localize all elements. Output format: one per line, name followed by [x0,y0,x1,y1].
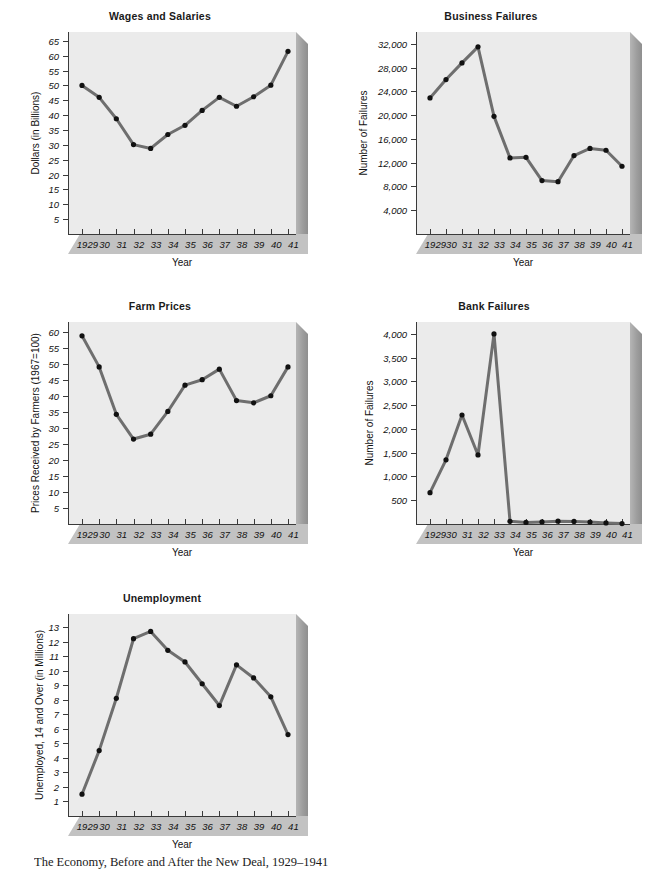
x-axis-tick-label: 31 [462,529,473,540]
x-axis-tick-label: 38 [574,529,585,540]
x-axis-tick-label: 1929 [425,239,446,250]
series-point [619,521,624,526]
series-point [182,383,187,388]
x-axis-tick-label: 33 [151,529,162,540]
x-axis-tick-label: 38 [237,239,248,250]
chart-bank-failures: Bank Failures5001,0001,5002,0002,5003,00… [334,300,668,582]
x-axis-tick-label: 36 [202,821,213,832]
x-axis-tick-label: 31 [116,821,127,832]
x-axis-line [416,524,630,525]
x-axis-tick-label: 31 [116,529,127,540]
series-point [539,519,544,524]
chart-farm-prices: Farm Prices51015202530354045505560192930… [0,300,334,582]
chart-plot-area: 4,0008,00012,00016,00020,00024,00028,000… [416,32,630,234]
chart-plot-area: 5101520253035404550556019293031323334353… [68,322,296,524]
series-point [97,95,102,100]
series-point [571,153,576,158]
x-axis-tick-label: 32 [478,239,489,250]
series-point [268,83,273,88]
x-axis-tick-label: 30 [446,239,457,250]
chart-unemployment: Unemployment1234567891011121319293031323… [0,592,334,873]
x-axis-tick-label: 41 [622,239,633,250]
x-axis-tick-label: 33 [151,239,162,250]
series-point [131,636,136,641]
x-axis-tick-label: 34 [510,529,521,540]
series-point [251,400,256,405]
series-point [165,409,170,414]
x-axis-tick-label: 36 [542,529,553,540]
series-point [234,662,239,667]
series-line [82,631,288,794]
series-point [603,148,608,153]
series-point [285,364,290,369]
series-point [523,520,528,525]
x-axis-tick-label: 32 [134,529,145,540]
x-axis-tick-label: 1929 [77,239,98,250]
series-point [507,519,512,524]
series-point [491,331,496,336]
chart-business-failures: Business Failures4,0008,00012,00016,0002… [334,10,668,292]
chart-3d-right-wall [296,322,308,524]
x-axis-tick-label: 30 [99,239,110,250]
x-axis-tick-label: 32 [134,821,145,832]
x-axis-tick-label: 35 [526,239,537,250]
series-point [507,155,512,160]
x-axis-tick-label: 41 [288,821,299,832]
chart-wages-and-salaries: Wages and Salaries5101520253035404550556… [0,10,334,292]
series-point [79,792,84,797]
chart-3d-right-wall [296,614,308,816]
x-axis-tick-label: 41 [288,239,299,250]
x-axis-tick-label: 35 [526,529,537,540]
series-point [114,116,119,121]
series-point [182,659,187,664]
x-axis-tick-label: 38 [237,529,248,540]
series-point [523,155,528,160]
chart-plot-area: 1234567891011121319293031323334353637383… [68,614,296,816]
y-axis-title: Dollars (in Billions) [30,32,41,234]
x-axis-title: Year [68,257,296,268]
series-point [475,452,480,457]
x-axis-tick-label: 32 [478,529,489,540]
x-axis-tick-label: 36 [202,239,213,250]
x-axis-tick-label: 38 [237,821,248,832]
x-axis-tick-label: 1929 [77,821,98,832]
series-point [234,398,239,403]
x-axis-tick-label: 40 [271,529,282,540]
series-point [182,123,187,128]
x-axis-tick-label: 36 [542,239,553,250]
series-layer [68,322,296,524]
chart-title: Business Failures [352,10,630,22]
x-axis-tick-label: 1929 [425,529,446,540]
series-point [571,519,576,524]
x-axis-tick-label: 39 [254,239,265,250]
x-axis-tick-label: 37 [558,239,569,250]
x-axis-tick-label: 33 [494,529,505,540]
series-line [430,334,622,524]
x-axis-tick-label: 39 [590,529,601,540]
chart-plot-area: 5001,0001,5002,0002,5003,0003,5004,00019… [416,322,630,524]
series-point [555,519,560,524]
x-axis-tick-label: 40 [606,239,617,250]
x-axis-tick-label: 1929 [77,529,98,540]
series-point [97,748,102,753]
y-axis-title: Unemployed, 14 and Over (in Millions) [34,614,45,816]
x-axis-tick-label: 34 [510,239,521,250]
x-axis-title: Year [68,547,296,558]
series-point [587,146,592,151]
x-axis-tick-label: 41 [622,529,633,540]
series-point [114,696,119,701]
series-point [200,108,205,113]
x-axis-tick-label: 38 [574,239,585,250]
x-axis-tick-label: 39 [254,821,265,832]
x-axis-tick-label: 32 [134,239,145,250]
series-point [491,114,496,119]
x-axis-tick-label: 31 [462,239,473,250]
series-point [285,732,290,737]
series-line [430,47,622,182]
series-point [165,648,170,653]
series-point [587,519,592,524]
x-axis-line [68,234,296,235]
chart-plot-area: 5101520253035404550556065192930313233343… [68,32,296,234]
x-axis-tick-label: 30 [446,529,457,540]
series-point [475,44,480,49]
